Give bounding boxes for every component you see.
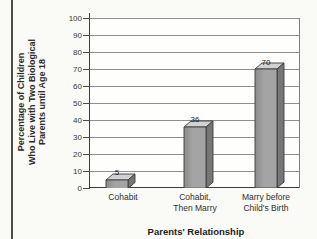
y-tick-label-100: 100 (56, 14, 82, 23)
bar-front-face (184, 127, 206, 188)
plot-right-border (299, 18, 300, 188)
y-tick-label-30: 30 (56, 133, 82, 142)
y-tick-40 (83, 120, 89, 121)
bar-front-face (106, 180, 128, 189)
y-tick-label-20: 20 (56, 150, 82, 159)
y-tick-label-60: 60 (56, 82, 82, 91)
x-axis-title: Parents' Relationship (96, 226, 296, 237)
y-tick-60 (83, 86, 89, 87)
gridline-100 (90, 18, 300, 19)
bar-2 (183, 120, 214, 188)
bar-side-face (277, 63, 284, 188)
y-tick-label-70: 70 (56, 65, 82, 74)
bar-value-label-3: 70 (251, 59, 281, 67)
gridline-90 (90, 35, 300, 36)
y-tick-label-10: 10 (56, 167, 82, 176)
bar-chart-figure: Percentage of Children Who Live with Two… (0, 0, 317, 239)
y-tick-100 (83, 18, 89, 19)
gridline-80 (90, 52, 300, 53)
y-tick-20 (83, 154, 89, 155)
y-tick-label-90: 90 (56, 31, 82, 40)
y-tick-70 (83, 69, 89, 70)
y-tick-90 (83, 35, 89, 36)
bar-value-label-1: 5 (102, 169, 132, 177)
y-tick-label-40: 40 (56, 116, 82, 125)
y-tick-label-50: 50 (56, 99, 82, 108)
y-tick-0 (83, 188, 89, 189)
bar-value-label-2: 36 (180, 116, 210, 124)
page-margin-rule (11, 0, 13, 239)
category-label-3: Marry before Child's Birth (220, 192, 312, 213)
plot-area: 53670 (90, 18, 300, 188)
bar-front-face (255, 69, 277, 188)
y-tick-80 (83, 52, 89, 53)
y-tick-50 (83, 103, 89, 104)
bar-side-face (206, 121, 213, 188)
y-axis-title: Percentage of Children Who Live with Two… (16, 22, 48, 182)
y-tick-label-80: 80 (56, 48, 82, 57)
bar-3 (254, 62, 285, 188)
y-tick-30 (83, 137, 89, 138)
y-tick-10 (83, 171, 89, 172)
